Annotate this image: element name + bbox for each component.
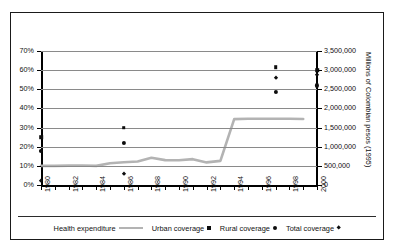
- legend-label: Health expenditure: [54, 224, 116, 233]
- x-axis-tick-label: 1996: [265, 176, 272, 192]
- y-axis-left-tick-label: 50%: [20, 85, 34, 92]
- legend-swatch-line-icon: [119, 227, 143, 230]
- x-axis-tick: [82, 186, 83, 190]
- plot-area: [41, 51, 317, 185]
- x-axis-tick-label: 1982: [72, 176, 79, 192]
- x-axis-tick: [41, 186, 42, 190]
- y-axis-right-tick-label: 1,000,000: [324, 143, 356, 150]
- gridline: [41, 51, 317, 52]
- y-axis-left-tick: [37, 108, 41, 109]
- x-axis-tick: [248, 186, 249, 190]
- legend-label: Urban coverage: [152, 224, 205, 233]
- y-axis-left-tick-label: 30%: [20, 124, 34, 131]
- x-axis-tick: [110, 186, 111, 190]
- x-axis-tick: [69, 186, 70, 190]
- x-axis-tick-label: 1998: [292, 176, 299, 192]
- gridline: [41, 108, 317, 109]
- y-axis-right-tick-label: 500,000: [324, 162, 350, 169]
- y-axis-right-tick-label: 3,000,000: [324, 66, 356, 73]
- y-axis-right-tick-label: 2,500,000: [324, 85, 356, 92]
- legend-label: Rural coverage: [220, 224, 270, 233]
- x-axis-tick-label: 2000: [320, 176, 327, 192]
- x-axis-tick: [303, 186, 304, 190]
- x-axis-tick-label: 1994: [237, 176, 244, 192]
- chart-legend: Health expenditureUrban coverageRural co…: [18, 220, 376, 236]
- gridline: [41, 128, 317, 129]
- legend-entry: Health expenditure: [54, 224, 143, 233]
- y-axis-left-tick-label: 40%: [20, 104, 34, 111]
- data-point-marker: [274, 65, 278, 69]
- y-axis-left-tick: [37, 70, 41, 71]
- x-axis-tick: [55, 186, 56, 190]
- x-axis-tick-label: 1992: [210, 176, 217, 192]
- y-axis-right-tick: [318, 51, 322, 52]
- y-axis-left-tick-label: 70%: [20, 47, 34, 54]
- y-axis-left-tick: [37, 166, 41, 167]
- data-point-marker: [39, 135, 43, 139]
- x-axis-tick-label: 1980: [44, 176, 51, 192]
- legend-separator: [18, 216, 376, 217]
- x-axis-tick: [179, 186, 180, 190]
- x-axis-tick: [317, 186, 318, 190]
- y-axis-right-tick: [318, 89, 322, 90]
- y-axis-left-tick: [37, 51, 41, 52]
- y-axis-left-tick: [37, 89, 41, 90]
- data-point-marker: [122, 126, 126, 130]
- x-axis-tick: [124, 186, 125, 190]
- gridline: [41, 70, 317, 71]
- x-axis-tick: [138, 186, 139, 190]
- legend-swatch-circle-icon: [273, 226, 277, 230]
- y-axis-right-tick: [318, 70, 322, 71]
- chart-figure: Millions of Colombian pesos (1995) Healt…: [0, 0, 394, 251]
- y-axis-right-title: Millions of Colombian pesos (1995): [365, 52, 372, 167]
- y-axis-right-tick-label: 1,500,000: [324, 124, 356, 131]
- legend-entry: Urban coverage: [152, 224, 211, 233]
- x-axis-tick-label: 1990: [182, 176, 189, 192]
- legend-swatch-square-icon: [207, 226, 211, 230]
- x-axis-tick: [165, 186, 166, 190]
- y-axis-left-tick-label: 60%: [20, 66, 34, 73]
- legend-entry: Total coverage: [286, 224, 340, 233]
- x-axis-tick: [276, 186, 277, 190]
- x-axis-tick: [220, 186, 221, 190]
- y-axis-right-tick: [318, 128, 322, 129]
- y-axis-right-tick-label: 2,000,000: [324, 104, 356, 111]
- y-axis-right-tick: [318, 147, 322, 148]
- y-axis-left-tick-label: 20%: [20, 143, 34, 150]
- x-axis-tick: [193, 186, 194, 190]
- legend-swatch-diamond-icon: [336, 226, 341, 231]
- legend-entry: Rural coverage: [220, 224, 277, 233]
- y-axis-right-tick: [318, 166, 322, 167]
- y-axis-left-tick: [37, 147, 41, 148]
- y-axis-left-tick: [37, 128, 41, 129]
- x-axis-tick-label: 1986: [127, 176, 134, 192]
- legend-label: Total coverage: [286, 224, 334, 233]
- y-axis-left-tick-label: 10%: [20, 162, 34, 169]
- y-axis-right-tick-label: 3,500,000: [324, 47, 356, 54]
- x-axis-tick-label: 1988: [154, 176, 161, 192]
- y-axis-left-tick-label: 0%: [24, 181, 34, 188]
- x-axis-tick: [207, 186, 208, 190]
- x-axis-tick-label: 1984: [99, 176, 106, 192]
- gridline: [41, 147, 317, 148]
- x-axis-tick: [262, 186, 263, 190]
- y-axis-right-tick: [318, 108, 322, 109]
- gridline: [41, 166, 317, 167]
